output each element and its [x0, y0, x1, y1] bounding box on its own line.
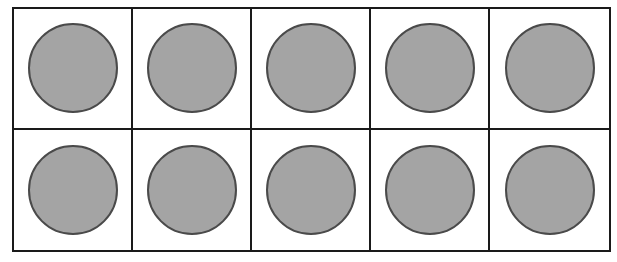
ten-frame — [12, 7, 611, 252]
frame-cell — [133, 9, 252, 130]
frame-cell — [490, 130, 609, 251]
circle-counter-icon — [505, 23, 595, 113]
circle-counter-icon — [385, 145, 475, 235]
circle-counter-icon — [28, 145, 118, 235]
circle-counter-icon — [266, 23, 356, 113]
frame-cell — [252, 130, 371, 251]
frame-cell — [133, 130, 252, 251]
circle-counter-icon — [28, 23, 118, 113]
circle-counter-icon — [385, 23, 475, 113]
circle-counter-icon — [147, 145, 237, 235]
frame-cell — [490, 9, 609, 130]
frame-cell — [371, 9, 490, 130]
frame-cell — [252, 9, 371, 130]
circle-counter-icon — [505, 145, 595, 235]
frame-cell — [371, 130, 490, 251]
circle-counter-icon — [266, 145, 356, 235]
circle-counter-icon — [147, 23, 237, 113]
frame-cell — [14, 9, 133, 130]
frame-cell — [14, 130, 133, 251]
